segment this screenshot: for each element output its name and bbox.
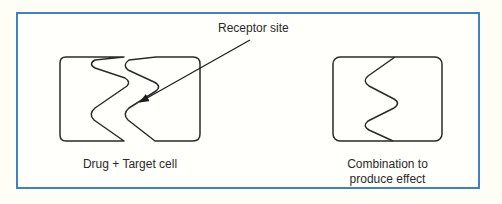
- drug-shape: [60, 57, 129, 141]
- receptor-site-label: Receptor site: [218, 21, 289, 36]
- receptor-pointer-arrow: [140, 40, 250, 102]
- drug-target-caption: Drug + Target cell: [74, 157, 186, 172]
- combination-caption: Combination to produce effect: [330, 157, 445, 187]
- target-cell-shape: [125, 57, 200, 141]
- combination-caption-line1: Combination to: [330, 157, 445, 172]
- combined-interface-line: [365, 57, 397, 141]
- combined-cell-outline: [333, 57, 442, 141]
- combination-caption-line2: produce effect: [330, 172, 445, 187]
